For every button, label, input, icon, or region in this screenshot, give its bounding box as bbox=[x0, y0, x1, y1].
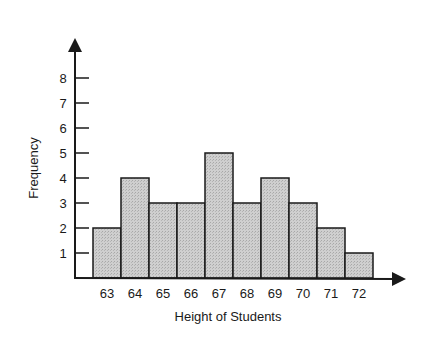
y-axis-arrow-icon bbox=[68, 38, 82, 52]
x-tick-label: 66 bbox=[184, 286, 198, 301]
x-tick-label: 70 bbox=[296, 286, 310, 301]
y-tick-label: 4 bbox=[59, 171, 66, 186]
x-tick-label: 65 bbox=[156, 286, 170, 301]
x-axis bbox=[74, 278, 395, 279]
bars-group bbox=[93, 153, 373, 278]
bar-65 bbox=[149, 203, 177, 278]
y-tick-label: 2 bbox=[59, 221, 66, 236]
bar-64 bbox=[121, 178, 149, 278]
x-tick-label: 68 bbox=[240, 286, 254, 301]
bar-71 bbox=[317, 228, 345, 278]
y-tick-label: 8 bbox=[59, 71, 66, 86]
bar-70 bbox=[289, 203, 317, 278]
y-axis-title: Frequency bbox=[26, 137, 41, 199]
x-axis-title: Height of Students bbox=[175, 309, 282, 324]
bar-63 bbox=[93, 228, 121, 278]
x-tick-label: 63 bbox=[100, 286, 114, 301]
x-ticks-group: 63646566676869707172 bbox=[100, 286, 366, 301]
histogram-chart: 12345678 63646566676869707172 Frequency … bbox=[0, 0, 421, 347]
x-tick-label: 72 bbox=[352, 286, 366, 301]
bar-66 bbox=[177, 203, 205, 278]
x-tick-label: 67 bbox=[212, 286, 226, 301]
y-tick-label: 6 bbox=[59, 121, 66, 136]
bar-68 bbox=[233, 203, 261, 278]
x-tick-label: 71 bbox=[324, 286, 338, 301]
y-tick-label: 7 bbox=[59, 96, 66, 111]
y-tick-label: 1 bbox=[59, 246, 66, 261]
y-tick-label: 5 bbox=[59, 146, 66, 161]
x-tick-label: 69 bbox=[268, 286, 282, 301]
x-tick-label: 64 bbox=[128, 286, 142, 301]
bar-72 bbox=[345, 253, 373, 278]
y-tick-label: 3 bbox=[59, 196, 66, 211]
bar-69 bbox=[261, 178, 289, 278]
bar-67 bbox=[205, 153, 233, 278]
x-axis-arrow-icon bbox=[392, 272, 406, 286]
